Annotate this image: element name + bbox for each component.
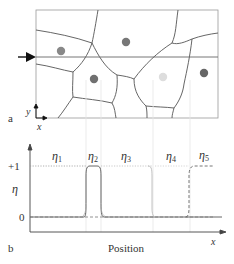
grain-dot-5: [200, 69, 208, 77]
grain-dot-3: [90, 75, 98, 83]
eta5-label: η5: [199, 148, 209, 163]
xy-axes-icon: [34, 104, 47, 120]
eta1-label: η1: [52, 149, 62, 164]
phase-field-diagram: y x a +1 0 η: [0, 0, 234, 264]
eta2-curve: [30, 166, 222, 217]
panel-label-a: a: [8, 112, 13, 124]
panel-label-b: b: [8, 242, 14, 254]
tick-plus-one: +1: [8, 160, 20, 172]
x-axis-title: Position: [108, 242, 145, 254]
x-axis-label-a: x: [36, 121, 42, 132]
microstructure-frame: [36, 10, 218, 118]
tick-zero: 0: [19, 211, 25, 223]
eta3-curve: [148, 166, 156, 217]
order-parameter-labels: η1 η2 η3 η4 η5: [52, 148, 209, 164]
grain-dot-4: [159, 73, 167, 81]
scan-line-arrow-icon: [18, 52, 36, 62]
grain-dot-1: [57, 47, 65, 55]
panel-b: +1 0 η x Position b η1 η2 η3 η4 η5: [8, 144, 226, 254]
eta3-label: η3: [121, 149, 131, 164]
grain-boundaries: [36, 10, 218, 118]
x-axis-label-b: x: [210, 236, 216, 247]
y-axis-label-a: y: [25, 106, 31, 117]
panel-a: y x a: [8, 10, 218, 132]
grain-dot-2: [122, 38, 130, 46]
eta2-label: η2: [88, 149, 98, 164]
eta4-label: η4: [166, 149, 176, 164]
y-axis-label-eta: η: [12, 182, 18, 196]
